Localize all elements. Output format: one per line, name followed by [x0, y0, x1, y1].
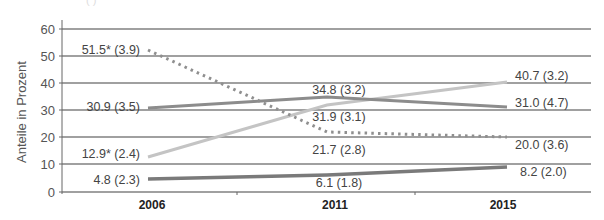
- y-tick-20: 20: [41, 130, 55, 145]
- y-tick-labels: 60 50 40 30 20 10 0: [41, 22, 55, 200]
- y-tick-30: 30: [41, 103, 55, 118]
- label-dark-2015: 8.2 (2.0): [520, 165, 567, 179]
- cutoff-text-fragment: ( ): [86, 0, 96, 6]
- label-dotted-2006: 51.5* (3.9): [82, 43, 140, 57]
- label-medium-2015: 31.0 (4.7): [515, 96, 569, 110]
- label-dark-2011: 6.1 (1.8): [316, 176, 363, 190]
- label-medium-2011: 34.8 (3.2): [312, 83, 366, 97]
- x-tick-2011: 2011: [322, 198, 348, 212]
- label-medium-2006: 30.9 (3.5): [86, 100, 140, 114]
- line-chart: ( ) 60 50 40 30 20 10 0 Anteile: [0, 0, 604, 220]
- y-tick-0: 0: [48, 185, 55, 200]
- x-tick-2006: 2006: [139, 198, 166, 212]
- label-dotted-2015: 20.0 (3.6): [515, 138, 569, 152]
- label-light-2006: 12.9* (2.4): [82, 147, 140, 161]
- x-tick-2015: 2015: [490, 198, 517, 212]
- chart-canvas: ( ) 60 50 40 30 20 10 0 Anteile: [0, 0, 604, 220]
- label-light-2011: 31.9 (3.1): [312, 110, 366, 124]
- y-axis-title: Anteile in Prozent: [14, 61, 29, 163]
- label-light-2015: 40.7 (3.2): [515, 69, 569, 83]
- label-dotted-2011: 21.7 (2.8): [312, 143, 366, 157]
- y-tick-50: 50: [41, 49, 55, 64]
- x-tick-labels: 2006 2011 2015: [139, 198, 517, 212]
- label-dark-2006: 4.8 (2.3): [93, 173, 140, 187]
- y-tick-40: 40: [41, 76, 55, 91]
- y-tick-60: 60: [41, 22, 55, 37]
- y-tick-10: 10: [41, 157, 55, 172]
- y-axis: [59, 20, 62, 194]
